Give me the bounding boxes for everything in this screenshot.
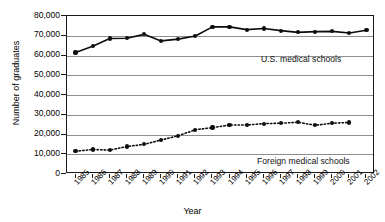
data-point-marker bbox=[227, 25, 231, 29]
y-tick-label: 30,000 bbox=[0, 109, 60, 118]
y-tick-label: 0 bbox=[0, 169, 60, 178]
data-point-marker bbox=[347, 120, 351, 124]
foreign-series-label: Foreign medical schools bbox=[257, 156, 350, 166]
us-series-label: U.S. medical schools bbox=[261, 54, 341, 64]
y-tick-mark bbox=[61, 173, 66, 174]
y-tick-label: 40,000 bbox=[0, 90, 60, 99]
x-axis-title: Year bbox=[0, 206, 385, 216]
y-tick-label: 80,000 bbox=[0, 11, 60, 20]
plot-area: U.S. medical schools Foreign medical sch… bbox=[66, 15, 374, 173]
data-point-marker bbox=[364, 28, 368, 32]
data-point-marker bbox=[125, 144, 129, 148]
y-tick-label: 50,000 bbox=[0, 70, 60, 79]
data-point-marker bbox=[262, 26, 266, 30]
data-point-marker bbox=[210, 25, 214, 29]
us-series-line bbox=[76, 27, 367, 53]
data-point-marker bbox=[313, 30, 317, 34]
data-point-marker bbox=[262, 122, 266, 126]
y-tick-label: 20,000 bbox=[0, 129, 60, 138]
series-lines bbox=[67, 16, 375, 174]
chart-figure: Number of graduates 80,00070,00060,00050… bbox=[0, 0, 385, 222]
data-point-marker bbox=[108, 148, 112, 152]
data-point-marker bbox=[73, 50, 77, 54]
data-point-marker bbox=[210, 125, 214, 129]
y-tick-label: 60,000 bbox=[0, 50, 60, 59]
data-point-marker bbox=[279, 29, 283, 33]
data-point-marker bbox=[91, 44, 95, 48]
data-point-marker bbox=[245, 28, 249, 32]
data-point-marker bbox=[108, 36, 112, 40]
y-tick-label: 10,000 bbox=[0, 149, 60, 158]
data-point-marker bbox=[227, 123, 231, 127]
y-tick-label: 70,000 bbox=[0, 30, 60, 39]
data-point-marker bbox=[245, 123, 249, 127]
data-point-marker bbox=[91, 147, 95, 151]
